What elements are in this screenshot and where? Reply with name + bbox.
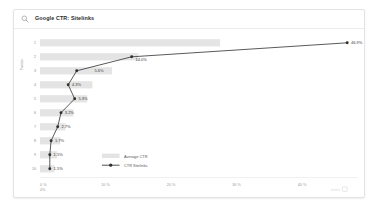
- x-tick-label: 30 %: [232, 183, 241, 187]
- chart-card: Google CTR: Sitelinks Position 1 2 3 4 5…: [13, 9, 365, 198]
- bar: [40, 53, 138, 60]
- data-label: 1.5%: [54, 152, 64, 157]
- combo-chart: Position 1 2 3 4 5 6 7 8 9 10: [14, 29, 366, 199]
- chart-plot-area: Position 1 2 3 4 5 6 7 8 9 10: [14, 29, 364, 199]
- data-label: 4.3%: [72, 82, 82, 87]
- y-tick-label: 6: [34, 111, 36, 115]
- y-tick-label: 1: [34, 41, 36, 45]
- line-series-ctr-sitelinks: [50, 43, 347, 169]
- y-tick-label: 7: [34, 125, 36, 129]
- y-tick-label: 2: [34, 55, 36, 59]
- chart-legend: Average CTR CTR Sitelinks: [102, 154, 148, 168]
- data-label: 14.0%: [136, 57, 148, 62]
- x-tick-sublabel: 0%: [40, 188, 46, 192]
- legend-marker-ctr-sitelinks: [109, 164, 112, 167]
- y-tick-label: 5: [34, 97, 36, 101]
- bar: [40, 165, 54, 172]
- data-point: [346, 41, 349, 44]
- x-tick-label: 20 %: [167, 183, 176, 187]
- data-point: [73, 97, 76, 100]
- legend-swatch-average-ctr: [102, 154, 120, 158]
- screenshot-root: Google CTR: Sitelinks Position 1 2 3 4 5…: [0, 0, 377, 212]
- watermark-icon: [343, 187, 348, 192]
- data-point: [50, 139, 53, 142]
- bar: [40, 39, 220, 46]
- bar-series-average-ctr: [40, 39, 220, 172]
- x-tick-label: 40 %: [298, 183, 307, 187]
- data-point: [48, 167, 51, 170]
- line-markers: [48, 41, 348, 170]
- legend-label-average-ctr: Average CTR: [124, 154, 148, 159]
- data-label: 1.7%: [55, 138, 65, 143]
- data-point: [60, 111, 63, 114]
- x-tick-label: 10 %: [101, 183, 110, 187]
- data-label: 5.6%: [95, 68, 105, 73]
- search-icon: [21, 15, 29, 23]
- watermark: sistrix: [331, 187, 347, 192]
- data-label: 1.5%: [54, 166, 64, 171]
- data-point: [67, 83, 70, 86]
- y-tick-label: 10: [32, 167, 36, 171]
- y-tick-label: 3: [34, 69, 36, 73]
- bar: [40, 81, 92, 88]
- legend-label-ctr-sitelinks: CTR Sitelinks: [124, 163, 148, 168]
- data-point: [48, 153, 51, 156]
- card-header: Google CTR: Sitelinks: [14, 10, 364, 29]
- data-point: [130, 55, 133, 58]
- watermark-label: sistrix: [331, 188, 340, 192]
- data-label: 5.3%: [79, 96, 89, 101]
- data-label: 2.7%: [62, 124, 72, 129]
- x-axis-ticks: 0 % 10 % 20 % 30 % 40 % 0%: [40, 183, 307, 193]
- y-tick-label: 9: [34, 153, 36, 157]
- y-axis-ticks: 1 2 3 4 5 6 7 8 9 10: [32, 41, 36, 171]
- y-axis-title: Position: [20, 59, 24, 71]
- y-tick-label: 8: [34, 139, 36, 143]
- x-tick-label: 0 %: [40, 183, 47, 187]
- data-label: 46.9%: [351, 40, 363, 45]
- data-point: [75, 69, 78, 72]
- data-label: 3.2%: [65, 110, 75, 115]
- y-tick-label: 4: [34, 83, 36, 87]
- card-title: Google CTR: Sitelinks: [35, 16, 94, 21]
- data-point: [56, 125, 59, 128]
